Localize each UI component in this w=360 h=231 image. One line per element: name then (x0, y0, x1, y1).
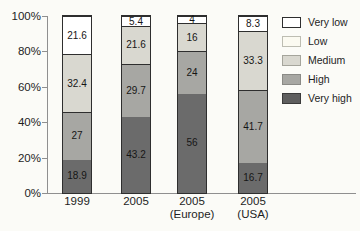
legend: Very lowLowMediumHighVery high (282, 16, 352, 111)
segment-very-low: 5.4 (122, 16, 150, 26)
y-tick-label: 100% (0, 10, 41, 22)
x-category-line1: 1999 (64, 195, 90, 207)
y-tick-label: 60% (0, 81, 41, 93)
segment-very-low: 8.3 (239, 16, 267, 31)
legend-swatch-icon (282, 17, 301, 28)
segment-medium: 21.6 (122, 26, 150, 64)
legend-label: High (308, 74, 330, 85)
segment-value-label: 24 (186, 68, 197, 78)
segment-value-label: 16.7 (243, 173, 262, 183)
segment-medium: 16 (178, 23, 206, 51)
legend-item-low: Low (282, 35, 352, 47)
segment-medium: 33.3 (239, 31, 267, 90)
segment-value-label: 16 (186, 33, 197, 43)
segment-very-high: 16.7 (239, 163, 267, 193)
legend-item-very-high: Very high (282, 92, 352, 104)
segment-value-label: 29.7 (126, 86, 145, 96)
segment-high: 29.7 (122, 64, 150, 117)
y-tick-label: 80% (0, 45, 41, 57)
segment-value-label: 5.4 (129, 17, 143, 27)
y-tick-label: 40% (0, 116, 41, 128)
segment-high: 41.7 (239, 90, 267, 164)
legend-label: Low (308, 36, 327, 47)
legend-swatch-icon (282, 93, 301, 104)
y-tick-label: 0% (0, 187, 41, 199)
segment-high: 24 (178, 51, 206, 93)
segment-value-label: 21.6 (126, 40, 145, 50)
legend-label: Very low (308, 17, 348, 28)
segment-very-high: 18.9 (63, 160, 91, 193)
y-tick-mark (42, 193, 47, 194)
segment-very-high: 43.2 (122, 117, 150, 193)
legend-item-medium: Medium (282, 54, 352, 66)
segment-very-low: 4 (178, 16, 206, 23)
segment-value-label: 21.6 (67, 31, 86, 41)
legend-swatch-icon (282, 36, 301, 47)
segment-value-label: 27 (71, 131, 82, 141)
y-tick-mark (42, 87, 47, 88)
legend-swatch-icon (282, 55, 301, 66)
legend-item-high: High (282, 73, 352, 85)
x-category-line1: 2005 (123, 195, 149, 207)
y-tick-label: 20% (0, 152, 41, 164)
segment-very-low: 21.6 (63, 16, 91, 54)
bar-2005: 43.229.721.65.4 (121, 15, 151, 194)
x-category-line1: 2005 (240, 195, 266, 207)
y-tick-mark (42, 122, 47, 123)
legend-label: Medium (308, 55, 345, 66)
bar-2005-europe: 5624164 (177, 15, 207, 194)
segment-very-high: 56 (178, 94, 206, 193)
segment-value-label: 43.2 (126, 150, 145, 160)
x-category-line2: (USA) (217, 209, 289, 221)
segment-medium: 32.4 (63, 54, 91, 111)
segment-value-label: 56 (186, 138, 197, 148)
segment-value-label: 41.7 (243, 122, 262, 132)
stacked-bar-chart: 0%20%40%60%80%100% 18.92732.421.643.229.… (0, 0, 360, 231)
y-axis-line (47, 16, 48, 194)
legend-item-very-low: Very low (282, 16, 352, 28)
y-tick-mark (42, 158, 47, 159)
x-category-line1: 2005 (179, 195, 205, 207)
x-category-label: 2005(USA) (217, 196, 289, 220)
segment-value-label: 33.3 (243, 56, 262, 66)
bar-1999: 18.92732.421.6 (62, 15, 92, 194)
segment-value-label: 4 (189, 15, 195, 25)
segment-value-label: 32.4 (67, 79, 86, 89)
segment-value-label: 18.9 (67, 171, 86, 181)
y-tick-mark (42, 51, 47, 52)
y-tick-mark (42, 16, 47, 17)
legend-swatch-icon (282, 74, 301, 85)
segment-high: 27 (63, 112, 91, 160)
legend-label: Very high (308, 93, 352, 104)
bar-2005-usa: 16.741.733.38.3 (238, 15, 268, 194)
segment-value-label: 8.3 (246, 19, 260, 29)
